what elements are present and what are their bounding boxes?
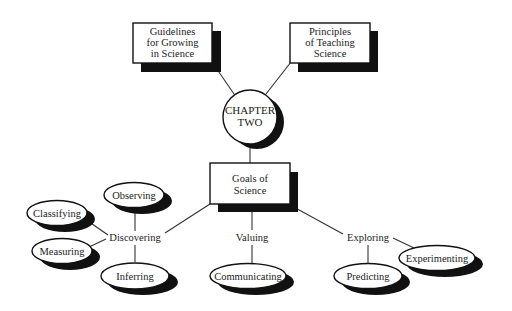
- connector-principles-chapter: [266, 62, 291, 94]
- node-classifying: Classifying: [27, 201, 95, 233]
- principles-line-1: Principles: [309, 26, 351, 37]
- node-measuring-label: Measuring: [40, 246, 86, 257]
- branch-label-valuing: Valuing: [236, 232, 269, 243]
- chapter-line-1: CHAPTER: [225, 104, 276, 116]
- goals-box: Goals of Science: [210, 163, 298, 212]
- connector-exploring-experimenting: [393, 238, 414, 248]
- node-inferring-label: Inferring: [116, 271, 154, 282]
- node-predicting: Predicting: [334, 264, 410, 296]
- principles-line-3: Science: [314, 48, 347, 59]
- node-inferring: Inferring: [101, 263, 178, 295]
- node-experimenting: Experimenting: [399, 246, 483, 278]
- guidelines-line-2: for Growing: [146, 37, 199, 48]
- node-classifying-label: Classifying: [33, 208, 82, 219]
- branch-label-exploring: Exploring: [347, 232, 390, 243]
- branch-label-discovering: Discovering: [109, 232, 161, 243]
- connector-goals-discovering: [165, 204, 210, 233]
- principles-line-2: of Teaching: [305, 37, 355, 48]
- node-communicating: Communicating: [210, 264, 294, 296]
- node-observing: Observing: [104, 183, 172, 215]
- chapter-line-2: TWO: [237, 116, 262, 128]
- chapter-circle: CHAPTER TWO: [223, 90, 284, 149]
- guidelines-line-3: in Science: [151, 48, 195, 59]
- node-communicating-label: Communicating: [214, 271, 282, 282]
- connector-discovering-measuring: [89, 239, 106, 247]
- principles-box: Principles of Teaching Science: [290, 23, 378, 72]
- concept-map: Guidelines for Growing in Science Princi…: [0, 0, 512, 311]
- goals-line-1: Goals of: [232, 173, 268, 184]
- guidelines-box: Guidelines for Growing in Science: [133, 23, 221, 72]
- node-predicting-label: Predicting: [346, 271, 390, 282]
- node-experimenting-label: Experimenting: [406, 253, 469, 264]
- goals-line-2: Science: [234, 185, 267, 196]
- node-observing-label: Observing: [112, 190, 156, 201]
- node-measuring: Measuring: [32, 239, 100, 271]
- guidelines-line-1: Guidelines: [150, 26, 196, 37]
